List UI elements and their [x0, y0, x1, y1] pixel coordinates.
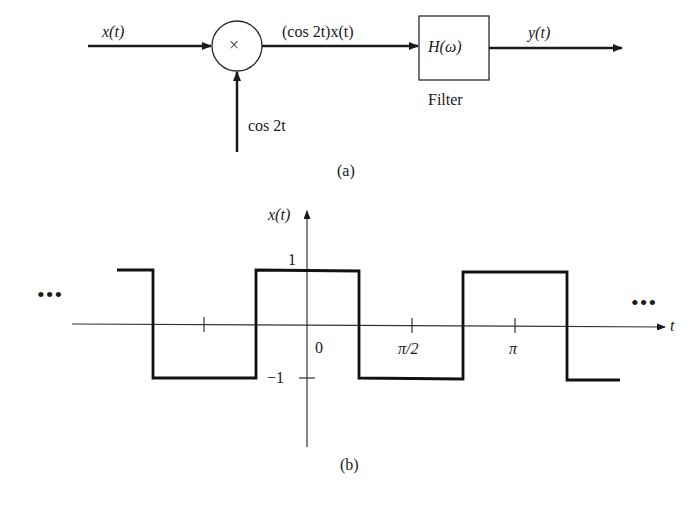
y-tick-label-high: 1 — [288, 252, 296, 268]
caption-a: (a) — [337, 163, 355, 179]
filter-caption: Filter — [428, 92, 463, 108]
y-axis-label: x(t) — [268, 207, 290, 223]
filter-transfer-label: H(ω) — [428, 39, 462, 55]
x-tick-label-half-pi: π/2 — [398, 341, 418, 357]
output-label: y(t) — [528, 25, 550, 41]
x-tick-label-pi: π — [509, 341, 517, 357]
ellipsis-left-icon: ••• — [37, 284, 63, 306]
product-label: (cos 2t)x(t) — [282, 24, 354, 40]
input-label: x(t) — [102, 24, 124, 40]
multiply-icon: × — [229, 36, 239, 54]
y-tick-label-low: −1 — [267, 370, 284, 386]
figure-canvas — [0, 0, 697, 507]
caption-b: (b) — [340, 457, 359, 473]
plot-axes — [72, 211, 665, 447]
t-axis — [72, 324, 665, 327]
t-axis-label: t — [670, 318, 674, 334]
x-tick-label-origin: 0 — [315, 340, 323, 356]
ellipsis-right-icon: ••• — [631, 292, 657, 314]
carrier-label: cos 2t — [248, 118, 286, 134]
